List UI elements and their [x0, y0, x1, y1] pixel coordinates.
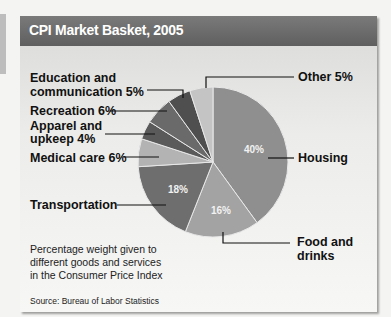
label-apparel: Apparel and — [30, 119, 102, 133]
label-food-2: drinks — [297, 249, 335, 263]
label-education-pct: communication 5% — [30, 85, 144, 99]
note-line-2: different goods and services — [30, 256, 161, 268]
label-recreation: Recreation 6% — [30, 104, 116, 118]
label-apparel-pct: upkeep 4% — [30, 132, 95, 146]
pct-transportation: 18% — [168, 184, 188, 195]
label-other: Other 5% — [298, 70, 353, 84]
label-medical: Medical care 6% — [30, 151, 127, 165]
source-note: Source: Bureau of Labor Statistics — [30, 296, 159, 306]
label-education: Education and — [30, 71, 116, 85]
label-transportation: Transportation — [30, 198, 118, 212]
pie-chart: Education and communication 5% Recreatio… — [0, 0, 391, 317]
pct-food: 16% — [211, 205, 231, 216]
note-line-1: Percentage weight given to — [30, 243, 157, 255]
label-housing: Housing — [298, 151, 348, 165]
label-food: Food and — [297, 235, 353, 249]
pct-housing: 40% — [244, 144, 264, 155]
note-line-3: in the Consumer Price Index — [30, 269, 163, 281]
